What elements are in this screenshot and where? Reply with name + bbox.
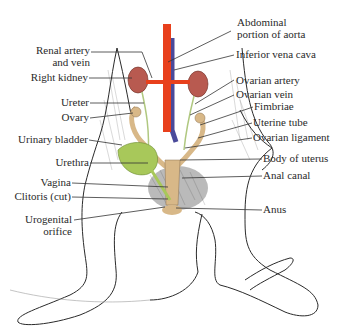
label-clitoris: Clitoris (cut) [0,191,71,202]
inferior-vena-cava [172,38,176,142]
label-ovarian-ligament: Ovarian ligament [253,132,330,143]
label-urogenital-orifice: Urogenital orifice [0,214,72,237]
label-urinary-bladder: Urinary bladder [0,134,88,145]
label-anal-canal: Anal canal [263,170,310,181]
label-renal-artery-vein: Renal artery and vein [16,45,90,68]
label-vagina: Vagina [0,177,71,188]
label-ureter: Ureter [10,97,89,108]
label-uterine-tube: Uterine tube [253,117,308,128]
label-ovarian-vein: Ovarian vein [236,89,293,100]
label-inferior-vena-cava: Inferior vena cava [236,49,316,60]
right-ovary [131,107,141,117]
left-ovary [195,113,205,123]
left-kidney [188,71,208,97]
right-kidney [128,67,148,93]
urogenital-sinus [162,205,182,215]
label-anus: Anus [263,204,286,215]
left-ureter [184,96,194,150]
abdominal-aorta [163,24,171,132]
label-abdominal-aorta: Abdominal portion of aorta [237,17,305,40]
label-ovary: Ovary [10,112,89,123]
label-urethra: Urethra [10,157,89,168]
label-right-kidney: Right kidney [10,72,88,83]
label-ovarian-artery: Ovarian artery [236,75,300,86]
anatomy-diagram: Renal artery and vein Right kidney Urete… [0,0,339,327]
label-fimbriae: Fimbriae [254,101,294,112]
label-body-of-uterus: Body of uterus [263,153,328,164]
